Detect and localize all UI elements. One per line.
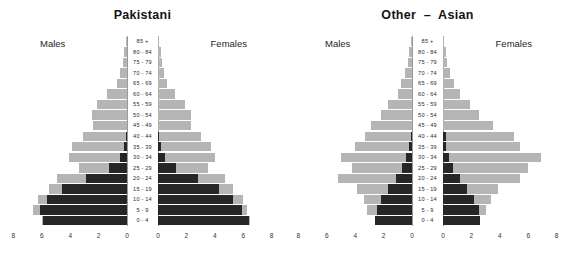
x-tick-label: 8 [270,232,274,239]
pyramid-bar [443,142,520,151]
pyramid-band [0,57,285,68]
pyramid-bar [158,153,165,162]
pyramid-band [285,163,570,174]
x-tick-label: 6 [526,232,530,239]
pyramid-bar [388,184,412,193]
pyramid-bar [158,174,198,183]
pyramid-bar [443,184,467,193]
pyramid-band [285,152,570,163]
pyramid-bar [117,79,127,88]
pyramid-band [285,131,570,142]
pyramid-bar [158,37,159,46]
pyramid-bar [107,89,127,98]
pyramid-bar [443,68,450,77]
pyramid-bar [158,153,215,162]
pyramid-bar [443,153,449,162]
pyramid-bar [158,110,191,119]
pyramid-band [285,120,570,131]
pyramid-band [0,215,285,226]
pyramid-bar [43,216,127,225]
pyramid-bar [443,142,446,151]
pyramid-bar [126,37,127,46]
pyramid-bar [158,132,201,141]
pyramid-band [285,142,570,153]
pyramid-bar [443,47,446,56]
pyramid-band [0,131,285,142]
pyramid-bar [443,121,493,130]
pyramid-bar [47,195,127,204]
pyramid-band [0,152,285,163]
pyramid-bar [443,79,454,88]
pyramid-bar [341,153,412,162]
pyramid-band [0,99,285,110]
pyramid-band [285,36,570,47]
pyramid-bar [109,163,127,172]
pyramid-bar [408,58,412,67]
pyramid-bar [158,132,159,141]
pyramid-bar [405,68,412,77]
x-tick-label: 4 [498,232,502,239]
pyramid-band [0,184,285,195]
x-tick-label: 2 [185,232,189,239]
pyramid-bar [398,89,412,98]
x-tick-label: 8 [555,232,559,239]
pyramid-bar [158,100,185,109]
pyramid-bar [158,184,219,193]
pyramid-band [285,99,570,110]
pyramid-band [0,78,285,89]
pyramid-bar [158,205,242,214]
x-tick-label: 8 [297,232,301,239]
pyramid-bar [401,79,412,88]
pyramid-bar [396,174,412,183]
pyramid-bar [124,47,127,56]
pyramid-band [0,173,285,184]
pyramid-bar [371,121,412,130]
pyramid-bar [158,58,162,67]
pyramid-bar [411,132,412,141]
pyramid-bar [443,37,444,46]
pyramid-band [285,194,570,205]
chart-panel-pakistani: Pakistani Males Females 85 +80 - 8475 - … [0,0,285,253]
pyramid-bar [158,142,211,151]
pyramid-band [0,120,285,131]
pyramid-bar [83,132,127,141]
pyramid-band [285,78,570,89]
pyramid-bar [443,132,446,141]
pyramid-band [0,194,285,205]
pyramid-band [285,215,570,226]
x-tick-label: 6 [325,232,329,239]
pyramid-bar [124,142,127,151]
x-tick-label: 4 [213,232,217,239]
pyramid-bar [120,68,127,77]
pyramid-bar [72,142,127,151]
pyramid-bar [443,205,479,214]
chart-panel-other-asian: Other – Asian Males Females 85 +80 - 847… [285,0,570,253]
pyramid-bar [120,153,127,162]
pyramid-bar [443,89,460,98]
pyramid-bar [158,216,249,225]
x-tick-label: 2 [470,232,474,239]
pyramid-bar [158,142,161,151]
x-tick-label: 0 [125,232,129,239]
pyramid-bar [443,216,480,225]
pyramid-bar [443,153,541,162]
pyramid-bar [62,184,127,193]
pyramid-band [285,68,570,79]
x-tick-label: 8 [12,232,16,239]
pyramid-bar [381,110,412,119]
pyramid-bar [126,132,127,141]
pyramid-band [0,68,285,79]
x-axis: 8642002468 [0,232,285,248]
pyramid-bar [377,205,413,214]
pyramid-band [285,89,570,100]
pyramid-bar [409,142,412,151]
pyramid-band [0,205,285,216]
pyramid-band [0,36,285,47]
plot-area: 85 +80 - 8475 - 7970 - 7465 - 6960 - 645… [285,0,570,253]
pyramid-bar [158,163,176,172]
pyramid-bar [443,132,514,141]
pyramid-bar [406,153,412,162]
x-axis: 8642002468 [285,232,570,248]
pyramid-bar [158,68,164,77]
pyramid-bar [443,163,528,172]
